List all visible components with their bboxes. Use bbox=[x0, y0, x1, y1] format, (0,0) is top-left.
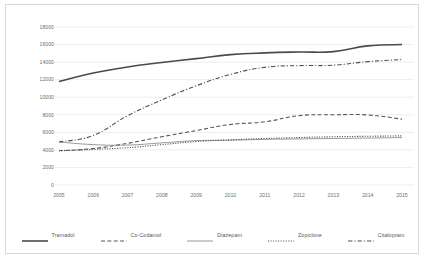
y-tick-label: 8000 bbox=[14, 112, 54, 118]
x-tick-label: 2006 bbox=[77, 192, 109, 198]
line-chart-svg bbox=[6, 5, 420, 255]
series-line-citalopram bbox=[59, 59, 402, 142]
legend-label: Tramadol bbox=[52, 232, 75, 238]
legend-item-co-codamol[interactable]: Co-Codamol bbox=[101, 231, 162, 239]
y-tick-label: 14000 bbox=[14, 59, 54, 65]
x-tick-label: 2015 bbox=[386, 192, 418, 198]
legend-label: Diazepam bbox=[217, 232, 242, 238]
x-tick-label: 2007 bbox=[112, 192, 144, 198]
y-tick-label: 6000 bbox=[14, 129, 54, 135]
x-tick-label: 2010 bbox=[215, 192, 247, 198]
x-tick-label: 2011 bbox=[249, 192, 281, 198]
y-tick-label: 18000 bbox=[14, 24, 54, 30]
series-line-tramadol bbox=[59, 45, 402, 82]
x-tick-label: 2005 bbox=[43, 192, 75, 198]
x-tick-label: 2013 bbox=[317, 192, 349, 198]
legend-item-diazepam[interactable]: Diazepam bbox=[187, 231, 242, 239]
x-tick-label: 2012 bbox=[283, 192, 315, 198]
chart-frame: 0200040006000800010000120001400016000180… bbox=[5, 4, 419, 254]
legend-label: Zopiclone bbox=[298, 232, 322, 238]
chart-plot-area: 0200040006000800010000120001400016000180… bbox=[6, 5, 420, 255]
x-tick-label: 2008 bbox=[146, 192, 178, 198]
chart-legend: TramadolCo-CodamolDiazepamZopicloneCital… bbox=[6, 231, 420, 239]
legend-item-zopiclone[interactable]: Zopiclone bbox=[268, 231, 322, 239]
legend-label: Co-Codamol bbox=[131, 232, 162, 238]
legend-swatch-icon bbox=[101, 231, 127, 239]
series-line-diazepam bbox=[59, 138, 402, 146]
y-tick-label: 16000 bbox=[14, 41, 54, 47]
legend-item-citalopram[interactable]: Citalopram bbox=[348, 231, 405, 239]
legend-swatch-icon bbox=[348, 231, 374, 239]
legend-swatch-icon bbox=[187, 231, 213, 239]
y-tick-label: 12000 bbox=[14, 76, 54, 82]
y-tick-label: 4000 bbox=[14, 147, 54, 153]
legend-label: Citalopram bbox=[378, 232, 405, 238]
legend-item-tramadol[interactable]: Tramadol bbox=[22, 231, 75, 239]
x-tick-label: 2014 bbox=[352, 192, 384, 198]
y-tick-label: 10000 bbox=[14, 94, 54, 100]
y-tick-label: 0 bbox=[14, 182, 54, 188]
legend-swatch-icon bbox=[22, 231, 48, 239]
legend-swatch-icon bbox=[268, 231, 294, 239]
x-tick-label: 2009 bbox=[180, 192, 212, 198]
y-tick-label: 2000 bbox=[14, 164, 54, 170]
